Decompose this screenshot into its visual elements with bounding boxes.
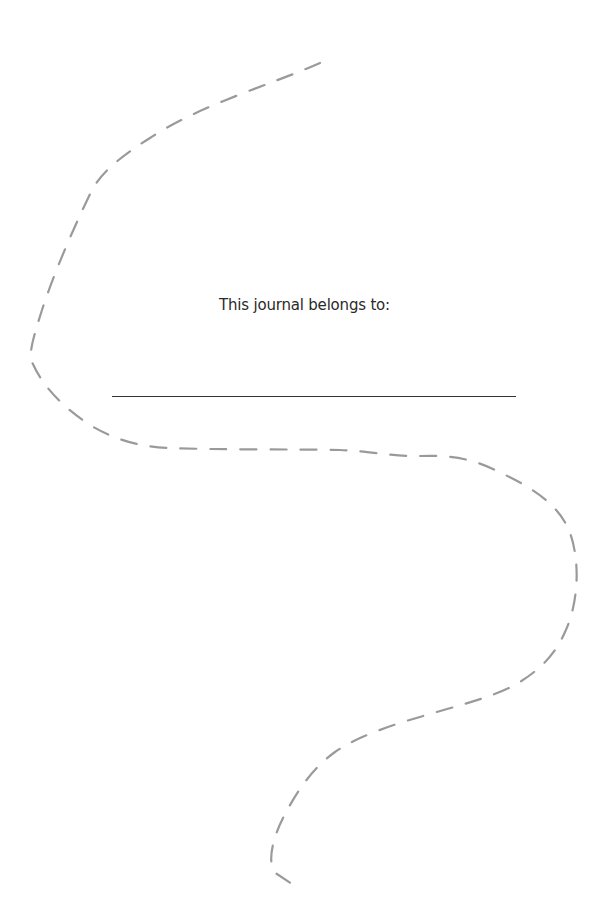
owner-label: This journal belongs to: bbox=[0, 296, 609, 314]
journal-cover-page: This journal belongs to: bbox=[0, 0, 609, 918]
owner-name-line[interactable] bbox=[112, 396, 516, 397]
decorative-dashed-curve bbox=[0, 0, 609, 918]
